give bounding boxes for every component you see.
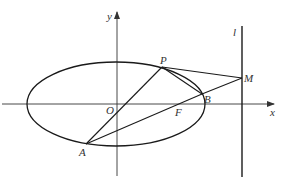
segment-AP: [86, 67, 162, 144]
directrix-label: l: [233, 26, 236, 38]
point-B-label: B: [204, 93, 211, 105]
origin-label: O: [106, 104, 114, 116]
diagram-canvas: y x O l P M B F A: [0, 0, 282, 189]
segment-PB: [162, 67, 202, 94]
segment-MB: [202, 78, 242, 94]
y-axis-label: y: [106, 10, 112, 22]
segment-AB: [86, 94, 202, 144]
point-M-label: M: [243, 72, 254, 84]
point-F-label: F: [174, 106, 182, 118]
x-axis-label: x: [269, 106, 275, 118]
point-P-label: P: [159, 54, 167, 66]
point-A-label: A: [78, 146, 86, 158]
